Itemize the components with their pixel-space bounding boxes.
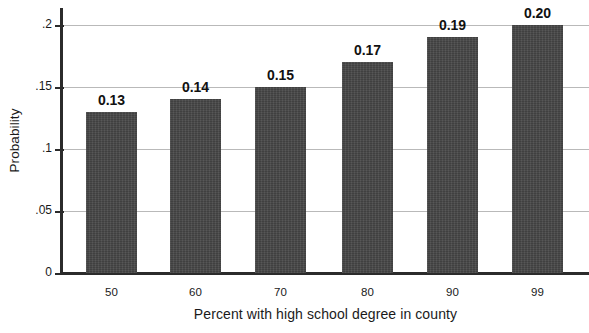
bar-value-label: 0.17 [328,42,407,58]
bar-value-label: 0.13 [72,92,151,108]
x-axis-line [60,272,589,275]
bar [170,99,221,273]
y-axis-line [60,8,63,274]
bar [427,37,478,273]
bar-value-label: 0.19 [413,17,492,33]
x-tick-label: 60 [156,286,235,298]
y-tick-label: 0 [22,265,52,279]
x-tick-label: 50 [72,286,151,298]
y-tick-label: .2 [22,17,52,31]
bar [255,87,306,273]
bar [342,62,393,273]
bar-chart: Probability 0.05.1.15.2 0.13500.14600.15… [0,0,589,333]
x-tick-label: 99 [498,286,577,298]
x-tick-label: 80 [328,286,407,298]
x-axis-title: Percent with high school degree in count… [62,306,589,322]
y-tick-label: .1 [22,141,52,155]
y-tick-label: .05 [22,203,52,217]
gridline [63,25,589,26]
x-tick-label: 70 [241,286,320,298]
bar-value-label: 0.20 [498,5,577,21]
bar [512,25,563,273]
bar [86,112,137,273]
bar-value-label: 0.14 [156,79,235,95]
bar-value-label: 0.15 [241,67,320,83]
x-tick-label: 90 [413,286,492,298]
gridline [63,211,589,212]
y-tick-label: .15 [22,79,52,93]
y-axis-title: Probability [0,0,28,280]
gridline [63,149,589,150]
y-axis-title-text: Probability [7,108,22,172]
gridline [63,87,589,88]
